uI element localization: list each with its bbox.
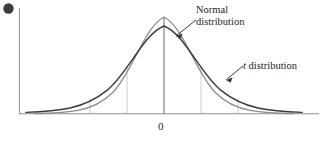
origin-tick-label: 0 (158, 120, 164, 133)
normal-distribution-label-line1: Normal (196, 4, 228, 15)
bullet-dot (3, 3, 13, 13)
arrow-to-t-curve (226, 66, 243, 83)
normal-distribution-label-line2: distribution (196, 16, 244, 28)
t-vs-normal-distribution-figure: Normal distribution t distribution 0 (0, 0, 332, 141)
arrow-to-normal-curve (176, 20, 196, 39)
t-distribution-label: t distribution (243, 60, 297, 72)
t-distribution-label-rest: distribution (246, 60, 297, 71)
normal-distribution-label: Normal distribution (196, 4, 244, 29)
